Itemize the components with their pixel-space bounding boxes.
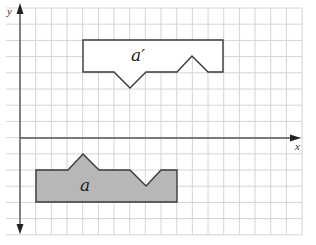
diagram-canvas: y x a′ a <box>0 0 316 245</box>
x-axis-label: x <box>294 140 300 152</box>
shape-a <box>36 154 177 202</box>
coordinate-grid-figure: y x a′ a <box>0 0 316 245</box>
shape-a-prime <box>83 40 223 88</box>
shape-a-label: a <box>80 175 90 195</box>
y-axis-down-arrow-icon <box>17 224 24 234</box>
y-axis-label: y <box>6 5 12 17</box>
shape-a-prime-label: a′ <box>131 45 145 65</box>
